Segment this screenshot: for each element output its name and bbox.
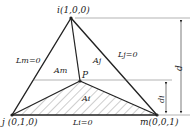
triangle-area-coordinates-diagram: i(1,0,0) j (0,1,0) m(0,0,1) P Lm=0 Lj=0 … [0, 0, 192, 127]
area-aj-label: Aj [92, 56, 102, 65]
dim-d-label: d [174, 65, 184, 71]
point-p-label: P [81, 70, 89, 80]
line-lm-label: Lm=0 [15, 56, 41, 65]
area-ai-label: Ai [81, 94, 91, 103]
vertex-j-label: j (0,1,0) [0, 117, 38, 127]
line-lj-label: Lj=0 [117, 50, 138, 59]
area-am-label: Am [53, 66, 68, 75]
vertex-i-dot [69, 16, 72, 19]
vertex-i-label: i(1,0,0) [57, 5, 90, 15]
vertex-m-label: m(0,0,1) [140, 117, 179, 127]
dim-di-label: di [157, 95, 166, 103]
line-li-label: Li=0 [72, 118, 93, 127]
